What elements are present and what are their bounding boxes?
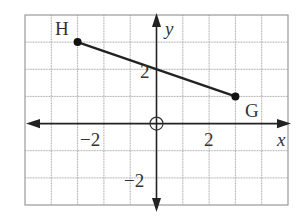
y-tick-neg2: −2 — [124, 170, 144, 191]
x-tick-neg2: −2 — [80, 129, 100, 150]
point-h — [74, 38, 82, 46]
point-g — [231, 92, 239, 100]
x-tick-pos2: 2 — [204, 129, 214, 150]
point-h-label: H — [55, 18, 69, 39]
y-tick-pos2: 2 — [140, 61, 150, 82]
x-axis-left-arrow-icon — [26, 119, 40, 128]
coordinate-plane: H G y x −2 2 2 −2 — [0, 0, 302, 219]
point-g-label: G — [245, 100, 259, 121]
x-axis-right-arrow-icon — [277, 119, 291, 128]
y-axis-label: y — [163, 18, 174, 39]
y-axis — [152, 13, 161, 212]
x-axis-label: x — [276, 129, 286, 150]
